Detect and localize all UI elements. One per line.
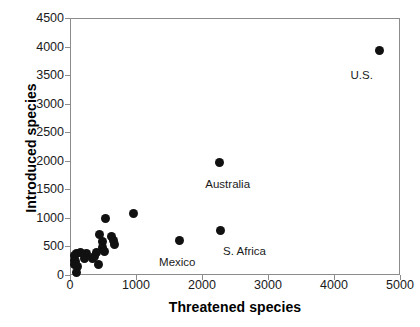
- x-tick-label: 1000: [106, 279, 166, 292]
- data-point-s-africa: [216, 226, 225, 235]
- x-tick-label: 4000: [304, 279, 364, 292]
- x-tick-mark: [70, 275, 71, 280]
- x-tick-label: 0: [40, 279, 100, 292]
- scatter-chart-figure: 050010001500200025003000350040004500 010…: [0, 0, 420, 327]
- x-tick-label: 3000: [238, 279, 298, 292]
- data-point: [129, 209, 138, 218]
- point-annotation: Australia: [205, 178, 250, 190]
- data-point-mexico: [175, 236, 184, 245]
- data-point: [72, 268, 81, 277]
- data-point-u-s: [375, 46, 384, 55]
- plot-area: [70, 18, 400, 275]
- x-tick-mark: [400, 275, 401, 280]
- x-tick-mark: [202, 275, 203, 280]
- x-tick-mark: [136, 275, 137, 280]
- point-annotation: S. Africa: [223, 245, 266, 257]
- y-axis-title: Introduced species: [23, 20, 39, 277]
- x-tick-mark: [268, 275, 269, 280]
- x-axis-title: Threatened species: [70, 299, 400, 315]
- data-point: [94, 260, 103, 269]
- x-tick-label: 2000: [172, 279, 232, 292]
- point-annotation: Mexico: [159, 256, 195, 268]
- data-point: [101, 214, 110, 223]
- x-tick-label: 5000: [370, 279, 420, 292]
- data-point: [110, 240, 119, 249]
- data-point-australia: [215, 158, 224, 167]
- x-tick-mark: [334, 275, 335, 280]
- point-annotation: U.S.: [351, 69, 373, 81]
